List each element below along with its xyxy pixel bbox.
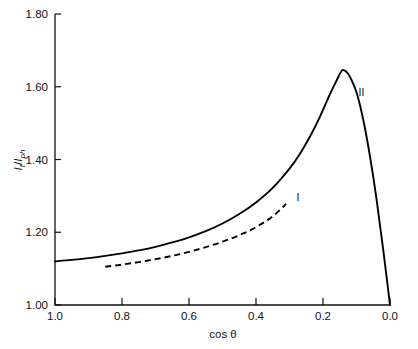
x-axis-ticks (55, 298, 390, 305)
series-line-ii (55, 70, 390, 305)
axes-frame (55, 14, 390, 305)
data-series-group (55, 70, 390, 305)
y-tick-label: 1.20 (26, 226, 48, 238)
x-axis-title: cos θ (209, 328, 237, 340)
y-tick-label: 1.80 (26, 8, 48, 20)
y-axis-title-denominator-sub: ph (18, 149, 27, 159)
x-tick-label: 0.0 (382, 310, 398, 322)
y-tick-label: 1.00 (26, 299, 48, 311)
y-tick-label: 1.60 (26, 81, 48, 93)
chart-canvas: 1.001.201.401.601.80 1.00.80.60.40.20.0 … (0, 0, 418, 349)
x-axis-tick-labels: 1.00.80.60.40.20.0 (47, 310, 398, 322)
x-tick-label: 0.8 (114, 310, 130, 322)
curve-label-i: I (296, 191, 299, 203)
x-tick-label: 0.4 (248, 310, 265, 322)
curve-label-ii: II (359, 86, 365, 98)
chart-figure: 1.001.201.401.601.80 1.00.80.60.40.20.0 … (0, 0, 418, 349)
x-tick-label: 0.2 (315, 310, 331, 322)
y-axis-tick-labels: 1.001.201.401.601.80 (26, 8, 48, 311)
x-tick-label: 0.6 (181, 310, 197, 322)
x-tick-label: 1.0 (47, 310, 63, 322)
y-tick-label: 1.40 (26, 154, 48, 166)
axis-frame-path (55, 14, 390, 305)
